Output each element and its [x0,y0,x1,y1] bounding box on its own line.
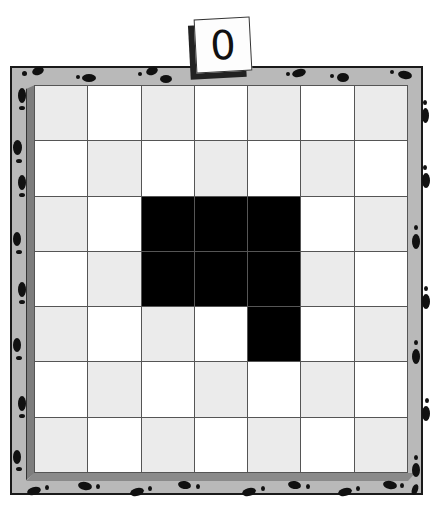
counter-card: 0 [194,17,253,74]
grid-cell-r2-c3[interactable] [195,197,247,251]
grid-cell-r5-c0[interactable] [35,362,87,416]
footprint-icon [261,486,265,491]
grid-cell-r6-c3[interactable] [195,418,247,472]
board-bevel-bottom [26,473,415,481]
footprint-icon [138,72,142,76]
footprint-icon [16,356,22,360]
grid-cell-r5-c4[interactable] [248,362,300,416]
footprint-icon [412,349,420,364]
grid-cell-r0-c4[interactable] [248,86,300,140]
grid-cell-r5-c2[interactable] [142,362,194,416]
footprint-icon [337,73,349,82]
grid-cell-r4-c0[interactable] [35,307,87,361]
grid-cell-r0-c6[interactable] [355,86,407,140]
counter-value: 0 [194,17,253,74]
grid-cell-r1-c4[interactable] [248,141,300,195]
grid-cell-r4-c1[interactable] [88,307,140,361]
footprint-icon [96,484,100,489]
grid-cell-r2-c6[interactable] [355,197,407,251]
footprint-icon [160,75,172,83]
grid-cell-r6-c0[interactable] [35,418,87,472]
footprint-icon [422,406,430,421]
grid-cell-r5-c6[interactable] [355,362,407,416]
grid-cell-r0-c0[interactable] [35,86,87,140]
grid-cell-r4-c6[interactable] [355,307,407,361]
footprint-icon [425,398,429,403]
grid-cell-r1-c5[interactable] [301,141,353,195]
footprint-icon [424,286,428,291]
footprint-icon [18,88,26,103]
grid-cell-r0-c1[interactable] [88,86,140,140]
footprint-icon [148,486,152,491]
footprint-icon [356,486,360,491]
footprint-icon [45,485,49,490]
grid-cell-r6-c6[interactable] [355,418,407,472]
grid-cell-r2-c4[interactable] [248,197,300,251]
grid-cell-r3-c2[interactable] [142,252,194,306]
grid-cell-r2-c1[interactable] [88,197,140,251]
footprint-icon [390,70,394,74]
footprint-icon [18,175,26,190]
grid-cell-r4-c4[interactable] [248,307,300,361]
footprint-icon [18,396,26,411]
footprint-icon [13,232,21,246]
grid-cell-r5-c1[interactable] [88,362,140,416]
footprint-icon [412,463,420,477]
grid-cell-r5-c3[interactable] [195,362,247,416]
grid-cell-r3-c4[interactable] [248,252,300,306]
footprint-icon [400,483,404,488]
grid-cell-r3-c5[interactable] [301,252,353,306]
footprint-icon [76,75,80,79]
grid-cell-r3-c1[interactable] [88,252,140,306]
footprint-icon [13,140,22,155]
grid-cell-r3-c6[interactable] [355,252,407,306]
footprint-icon [13,338,21,352]
grid-cell-r2-c0[interactable] [35,197,87,251]
footprint-icon [414,225,418,230]
grid-cell-r1-c6[interactable] [355,141,407,195]
footprint-icon [16,159,22,163]
grid-cell-r6-c2[interactable] [142,418,194,472]
footprint-icon [422,294,430,309]
footprint-icon [306,484,310,489]
grid-cell-r6-c4[interactable] [248,418,300,472]
footprint-icon [18,282,26,297]
grid-cell-r6-c5[interactable] [301,418,353,472]
footprint-icon [19,300,25,304]
grid-cell-r0-c5[interactable] [301,86,353,140]
footprint-icon [82,74,96,82]
grid-cell-r0-c2[interactable] [142,86,194,140]
footprint-icon [330,74,334,78]
footprint-icon [414,455,418,460]
footprint-icon [412,234,420,249]
footprint-icon [414,340,418,345]
grid-cell-r3-c0[interactable] [35,252,87,306]
grid-cell-r6-c1[interactable] [88,418,140,472]
grid-cell-r2-c5[interactable] [301,197,353,251]
footprint-icon [16,250,22,254]
grid-cell-r1-c2[interactable] [142,141,194,195]
grid-cell-r1-c0[interactable] [35,141,87,195]
footprint-icon [22,71,27,76]
footprint-icon [422,173,430,188]
footprint-icon [19,414,25,418]
footprint-icon [19,193,25,197]
footprint-icon [423,100,427,105]
footprint-icon [423,165,427,170]
footprint-icon [422,108,429,123]
game-grid [34,85,408,473]
footprint-icon [19,106,25,110]
grid-cell-r1-c3[interactable] [195,141,247,195]
grid-cell-r4-c3[interactable] [195,307,247,361]
grid-cell-r0-c3[interactable] [195,86,247,140]
grid-cell-r1-c1[interactable] [88,141,140,195]
footprint-icon [13,450,21,464]
grid-cell-r4-c5[interactable] [301,307,353,361]
footprint-icon [16,467,22,471]
grid-cell-r3-c3[interactable] [195,252,247,306]
grid-cell-r4-c2[interactable] [142,307,194,361]
grid-cell-r2-c2[interactable] [142,197,194,251]
footprint-icon [286,72,290,76]
grid-cell-r5-c5[interactable] [301,362,353,416]
footprint-icon [196,484,200,489]
